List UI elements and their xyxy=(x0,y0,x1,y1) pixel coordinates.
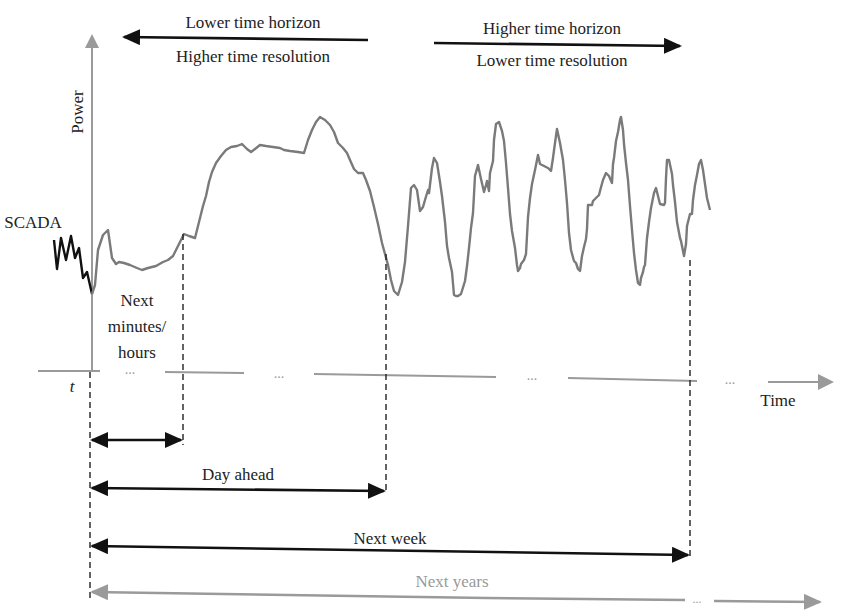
higher-time-resolution-label: Higher time resolution xyxy=(176,47,330,66)
day-ahead-label: Day ahead xyxy=(202,465,275,484)
forecast-horizon-diagram: Lower time horizon Higher time resolutio… xyxy=(0,0,843,616)
right-horizon-arrow: Higher time horizon Lower time resolutio… xyxy=(434,19,680,70)
scada-label: SCADA xyxy=(4,213,62,232)
axis-ellipsis: ... xyxy=(725,372,736,387)
axis-ellipsis: ... xyxy=(693,592,702,606)
axis-ellipsis: ... xyxy=(125,362,136,377)
y-axis-arrow-icon xyxy=(85,34,99,48)
axis-ellipsis: ... xyxy=(274,366,285,381)
x-axis: ... ... ... ... Time t xyxy=(38,362,834,410)
scada-series xyxy=(54,236,92,294)
lower-time-resolution-label: Lower time resolution xyxy=(476,51,628,70)
next-minutes-hours-label: Next minutes/ hours xyxy=(108,291,167,362)
svg-text:Next: Next xyxy=(120,291,153,310)
horizon-next-week: Next week xyxy=(92,529,688,555)
svg-text:minutes/: minutes/ xyxy=(108,317,167,336)
double-arrow-icon xyxy=(92,488,384,491)
t-label: t xyxy=(70,377,76,396)
svg-text:hours: hours xyxy=(118,343,156,362)
axis-ellipsis: ... xyxy=(527,368,538,383)
forecast-series xyxy=(92,117,710,296)
left-horizon-arrow: Lower time horizon Higher time resolutio… xyxy=(124,13,368,66)
horizon-next-years: Next years ... xyxy=(92,572,820,606)
y-axis-label: Power xyxy=(68,90,87,134)
double-arrow-icon xyxy=(92,592,487,598)
x-axis-label: Time xyxy=(760,391,795,410)
next-week-label: Next week xyxy=(353,529,427,548)
left-arrow-icon xyxy=(124,37,368,40)
y-axis: Power xyxy=(68,34,99,372)
higher-time-horizon-label: Higher time horizon xyxy=(483,19,621,38)
next-years-label: Next years xyxy=(415,572,488,591)
right-arrow-icon xyxy=(434,43,680,46)
x-axis-arrow-icon xyxy=(818,374,834,390)
lower-time-horizon-label: Lower time horizon xyxy=(185,13,321,32)
horizon-day-ahead: Day ahead xyxy=(92,465,384,491)
